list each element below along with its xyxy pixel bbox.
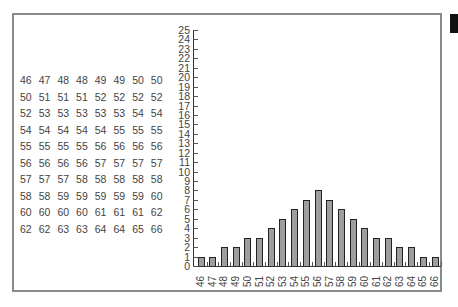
histogram-bar bbox=[361, 228, 368, 266]
y-tick-label: 14 bbox=[170, 129, 190, 139]
x-tick-label: 52 bbox=[265, 276, 276, 287]
y-tick bbox=[193, 172, 198, 173]
x-tick bbox=[347, 262, 348, 266]
x-tick bbox=[359, 262, 360, 266]
histogram-bar bbox=[303, 200, 310, 266]
x-tick-label: 57 bbox=[324, 276, 335, 287]
x-tick bbox=[265, 262, 266, 266]
histogram-bar bbox=[233, 247, 240, 266]
x-tick bbox=[405, 262, 406, 266]
x-tick-label: 65 bbox=[417, 276, 428, 287]
y-tick-label: 3 bbox=[170, 233, 190, 243]
histogram-bar bbox=[350, 219, 357, 266]
histogram-bar bbox=[396, 247, 403, 266]
x-tick-label: 66 bbox=[429, 276, 440, 287]
x-tick-label: 51 bbox=[254, 276, 265, 287]
histogram-bar bbox=[432, 257, 439, 266]
y-tick bbox=[193, 58, 198, 59]
x-tick bbox=[218, 262, 219, 266]
y-tick bbox=[193, 49, 198, 50]
x-tick-label: 46 bbox=[195, 276, 206, 287]
histogram-bar bbox=[408, 247, 415, 266]
y-axis bbox=[193, 30, 194, 267]
histogram-bar bbox=[315, 190, 322, 266]
x-tick-label: 56 bbox=[312, 276, 323, 287]
y-tick-label: 25 bbox=[170, 25, 190, 35]
histogram-bar bbox=[373, 238, 380, 266]
histogram-bar bbox=[198, 257, 205, 266]
y-tick bbox=[193, 106, 198, 107]
x-tick bbox=[429, 262, 430, 266]
x-tick-label: 54 bbox=[289, 276, 300, 287]
histogram-bar bbox=[385, 238, 392, 266]
x-tick-label: 60 bbox=[359, 276, 370, 287]
histogram-bar bbox=[291, 209, 298, 266]
histogram-bar bbox=[338, 209, 345, 266]
y-tick bbox=[193, 162, 198, 163]
y-tick bbox=[193, 153, 198, 154]
x-tick bbox=[288, 262, 289, 266]
x-tick-label: 55 bbox=[300, 276, 311, 287]
y-tick-label: 17 bbox=[170, 101, 190, 111]
y-tick bbox=[193, 190, 198, 191]
x-tick bbox=[277, 262, 278, 266]
y-tick-label: 21 bbox=[170, 63, 190, 73]
histogram-bar bbox=[209, 257, 216, 266]
x-tick bbox=[230, 262, 231, 266]
y-tick bbox=[193, 143, 198, 144]
y-tick bbox=[193, 87, 198, 88]
y-tick-label: 1 bbox=[170, 252, 190, 262]
y-tick bbox=[193, 77, 198, 78]
y-tick bbox=[193, 124, 198, 125]
histogram-chart: 0123456789101112131415161718192021222324… bbox=[0, 0, 458, 307]
x-tick bbox=[242, 262, 243, 266]
y-tick bbox=[193, 219, 198, 220]
y-tick-label: 5 bbox=[170, 214, 190, 224]
histogram-bar bbox=[244, 238, 251, 266]
x-tick-label: 47 bbox=[207, 276, 218, 287]
y-tick bbox=[193, 134, 198, 135]
y-tick-label: 7 bbox=[170, 195, 190, 205]
x-tick-label: 58 bbox=[335, 276, 346, 287]
x-tick bbox=[324, 262, 325, 266]
histogram-bar bbox=[221, 247, 228, 266]
x-tick bbox=[335, 262, 336, 266]
histogram-bar bbox=[256, 238, 263, 266]
y-tick bbox=[193, 39, 198, 40]
y-tick bbox=[193, 200, 198, 201]
y-tick bbox=[193, 228, 198, 229]
x-tick-label: 61 bbox=[371, 276, 382, 287]
y-tick bbox=[193, 266, 198, 267]
y-tick bbox=[193, 115, 198, 116]
x-tick-label: 49 bbox=[230, 276, 241, 287]
histogram-bar bbox=[326, 200, 333, 266]
x-tick bbox=[312, 262, 313, 266]
histogram-bar bbox=[268, 228, 275, 266]
y-tick bbox=[193, 96, 198, 97]
y-tick bbox=[193, 238, 198, 239]
x-tick-label: 64 bbox=[406, 276, 417, 287]
x-tick bbox=[207, 262, 208, 266]
x-axis bbox=[193, 266, 441, 267]
x-tick-label: 62 bbox=[382, 276, 393, 287]
x-tick bbox=[253, 262, 254, 266]
x-tick-label: 48 bbox=[218, 276, 229, 287]
x-tick-label: 63 bbox=[394, 276, 405, 287]
x-tick bbox=[441, 262, 442, 266]
y-tick bbox=[193, 247, 198, 248]
y-tick bbox=[193, 209, 198, 210]
x-tick-label: 59 bbox=[347, 276, 358, 287]
x-tick bbox=[300, 262, 301, 266]
x-tick-label: 53 bbox=[277, 276, 288, 287]
x-tick bbox=[382, 262, 383, 266]
y-tick-label: 12 bbox=[170, 148, 190, 158]
x-tick bbox=[394, 262, 395, 266]
histogram-bar bbox=[420, 257, 427, 266]
y-tick bbox=[193, 30, 198, 31]
x-tick-label: 50 bbox=[242, 276, 253, 287]
y-tick bbox=[193, 68, 198, 69]
y-tick bbox=[193, 181, 198, 182]
x-tick bbox=[417, 262, 418, 266]
histogram-bar bbox=[279, 219, 286, 266]
y-tick-label: 10 bbox=[170, 167, 190, 177]
